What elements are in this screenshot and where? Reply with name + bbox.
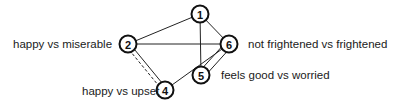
label-feels-good-vs-worried: feels good vs worried (221, 69, 330, 81)
node-5-number: 5 (198, 70, 204, 82)
node-1-number: 1 (197, 9, 203, 21)
label-happy-vs-miserable: happy vs miserable (13, 38, 112, 50)
label-not-frightened-vs-frightened: not frightened vs frightened (248, 38, 387, 50)
node-2: 2 (120, 36, 137, 53)
node-6-number: 6 (226, 39, 232, 51)
edge-1-2 (128, 14, 200, 44)
node-2-number: 2 (125, 39, 131, 51)
network-diagram: 1 2 6 5 4 happy vs miserable not frighte… (0, 0, 397, 110)
node-1: 1 (192, 6, 209, 23)
node-6: 6 (221, 36, 238, 53)
node-4-number: 4 (162, 85, 169, 97)
node-5: 5 (193, 67, 210, 84)
label-happy-vs-upset: happy vs upset (82, 85, 160, 97)
edges (126, 14, 232, 91)
